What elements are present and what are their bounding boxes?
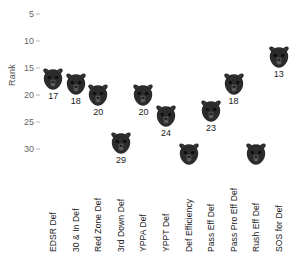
x-axis-labels: EDSR Def30 & In DefRed Zone Def3rd Down …: [42, 162, 290, 254]
y-tick-label: 5: [0, 9, 34, 19]
data-point-value-label: 17: [48, 91, 58, 101]
bear-head-icon: [85, 82, 111, 108]
data-point-value-label: 18: [229, 96, 239, 106]
data-point-value-label: 24: [161, 128, 171, 138]
x-axis-category-label: EDSR Def: [48, 212, 58, 252]
data-point-value-label: 18: [71, 96, 81, 106]
bear-head-icon: [266, 44, 292, 70]
bear-head-icon: [221, 71, 247, 97]
data-point-value-label: 13: [274, 69, 284, 79]
y-tick-mark: [36, 94, 40, 95]
y-tick-mark: [36, 121, 40, 122]
data-point[interactable]: 20: [85, 82, 111, 108]
x-axis-category-label: SOS for Def: [274, 205, 284, 252]
x-axis-category-label: YPPT Def: [161, 214, 171, 252]
bear-head-icon: [198, 98, 224, 124]
y-tick-label: 15: [0, 63, 34, 73]
data-point-value-label: 20: [93, 107, 103, 117]
x-axis-category-label: 3rd Down Def: [116, 199, 126, 252]
data-point[interactable]: 29: [108, 130, 134, 156]
bear-head-icon: [108, 130, 134, 156]
data-point[interactable]: 18: [221, 71, 247, 97]
x-axis-category-label: 30 & In Def: [71, 208, 81, 252]
x-axis-category-label: Red Zone Def: [93, 198, 103, 252]
data-point-value-label: 20: [138, 107, 148, 117]
x-axis-category-label: Def Efficiency: [184, 199, 194, 252]
y-tick-label: 10: [0, 36, 34, 46]
x-axis-category-label: YPPA Def: [138, 214, 148, 252]
data-point-value-label: 23: [206, 123, 216, 133]
data-point[interactable]: 13: [266, 44, 292, 70]
data-point[interactable]: 24: [153, 103, 179, 129]
x-axis-category-label: Pass Pro Eff Def: [229, 188, 239, 252]
rank-scatter-chart: Rank 51015202530 171820292024231813 EDSR…: [0, 0, 292, 254]
y-tick-mark: [36, 148, 40, 149]
y-tick-label: 20: [0, 90, 34, 100]
y-tick-mark: [36, 14, 40, 15]
data-point[interactable]: 23: [198, 98, 224, 124]
x-axis-category-label: Rush Eff Def: [251, 203, 261, 252]
plot-area: 171820292024231813: [42, 6, 290, 162]
x-axis-category-label: Pass Eff Def: [206, 204, 216, 252]
bear-head-icon: [153, 103, 179, 129]
y-tick-label: 25: [0, 117, 34, 127]
y-tick-label: 30: [0, 144, 34, 154]
y-tick-mark: [36, 40, 40, 41]
